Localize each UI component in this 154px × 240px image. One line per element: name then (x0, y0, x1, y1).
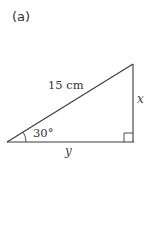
adjacent-side-label: y (65, 145, 72, 157)
angle-label: 30° (33, 128, 53, 140)
opposite-side-label: x (137, 93, 144, 105)
hypotenuse-line (7, 64, 133, 142)
hypotenuse-label: 15 cm (48, 80, 84, 92)
angle-arc (23, 132, 26, 142)
right-angle-marker (124, 133, 133, 142)
